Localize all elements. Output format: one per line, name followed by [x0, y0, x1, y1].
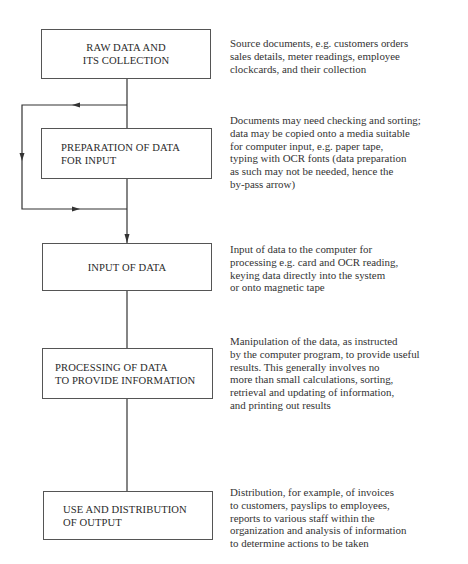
description-line: clockcards, and their collection	[230, 63, 408, 76]
step-title-line: USE AND DISTRIBUTION	[63, 503, 187, 516]
description-line: reports to various staff within the	[230, 512, 406, 525]
description-line: Documents may need checking and sorting;	[230, 114, 421, 127]
arrow-down-icon	[20, 153, 25, 161]
step-title-line: FOR INPUT	[61, 154, 116, 167]
description-line: by the computer program, to provide usef…	[230, 348, 420, 361]
description-line: sales details, meter readings, employee	[230, 50, 408, 63]
description-line: processing e.g. card and OCR reading,	[230, 256, 398, 269]
step-title-line: TO PROVIDE INFORMATION	[55, 374, 195, 387]
description-line: for computer input, e.g. paper tape,	[230, 140, 421, 153]
step-box-raw-data: RAW DATA AND ITS COLLECTION	[41, 29, 211, 79]
description-line: as such may not be needed, hence the	[230, 165, 421, 178]
description-line: Source documents, e.g. customers orders	[230, 37, 408, 50]
step-description-input: Input of data to the computer for proces…	[230, 243, 398, 294]
step-box-processing: PROCESSING OF DATA TO PROVIDE INFORMATIO…	[42, 348, 213, 399]
step-description-raw-data: Source documents, e.g. customers orders …	[230, 37, 408, 75]
step-title-line: RAW DATA AND	[86, 41, 165, 54]
step-title-line: PREPARATION OF DATA	[61, 141, 180, 154]
description-line: by-pass arrow)	[230, 178, 421, 191]
description-line: to determine actions to be taken	[230, 537, 406, 550]
description-line: or onto magnetic tape	[230, 281, 398, 294]
arrow-left-icon	[72, 103, 80, 108]
arrow-down-icon	[125, 234, 130, 243]
step-description-processing: Manipulation of the data, as instructed …	[230, 335, 420, 412]
step-box-output: USE AND DISTRIBUTION OF OUTPUT	[43, 491, 213, 540]
step-box-input: INPUT OF DATA	[42, 243, 212, 291]
step-title-line: INPUT OF DATA	[88, 261, 167, 274]
description-line: and printing out results	[230, 399, 420, 412]
step-box-preparation: PREPARATION OF DATA FOR INPUT	[41, 128, 212, 179]
description-line: Input of data to the computer for	[230, 243, 398, 256]
description-line: typing with OCR fonts (data preparation	[230, 152, 421, 165]
step-title-line: ITS COLLECTION	[83, 54, 169, 67]
data-processing-flowchart: RAW DATA AND ITS COLLECTION Source docum…	[0, 0, 468, 564]
description-line: organization and analysis of information	[230, 524, 406, 537]
step-title-line: PROCESSING OF DATA	[55, 361, 168, 374]
step-description-output: Distribution, for example, of invoices t…	[230, 486, 406, 550]
description-line: Manipulation of the data, as instructed	[230, 335, 420, 348]
description-line: more than small calculations, sorting,	[230, 373, 420, 386]
description-line: retrieval and updating of information,	[230, 386, 420, 399]
description-line: results. This generally involves no	[230, 361, 420, 374]
arrow-right-icon	[72, 207, 80, 212]
description-line: data may be copied onto a media suitable	[230, 127, 421, 140]
description-line: keying data directly into the system	[230, 269, 398, 282]
description-line: Distribution, for example, of invoices	[230, 486, 406, 499]
description-line: to customers, payslips to employees,	[230, 499, 406, 512]
step-title-line: OF OUTPUT	[63, 516, 122, 529]
step-description-preparation: Documents may need checking and sorting;…	[230, 114, 421, 191]
